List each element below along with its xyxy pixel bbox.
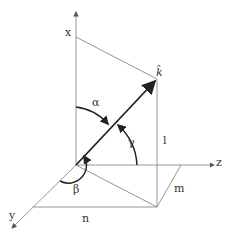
x-axis-label: x <box>65 26 72 39</box>
alpha-label: α <box>92 96 100 109</box>
m-label: m <box>174 182 185 195</box>
direction-cosine-diagram: x z y k̂ α γ β l m n <box>0 0 234 242</box>
n-label: n <box>82 212 89 225</box>
gamma-label: γ <box>128 136 135 149</box>
z-axis-label: z <box>216 156 222 169</box>
x-projection-line <box>76 37 157 79</box>
diagram-svg: x z y k̂ α γ β l m n <box>0 0 234 242</box>
base-diagonal-line <box>76 165 157 207</box>
y-axis <box>12 165 76 228</box>
alpha-arc <box>76 107 108 124</box>
vector-k-label: k̂ <box>156 65 163 79</box>
beta-label: β <box>73 183 79 196</box>
l-label: l <box>163 134 167 147</box>
beta-arc <box>60 156 86 183</box>
vector-k <box>76 81 155 165</box>
y-axis-label: y <box>8 209 16 222</box>
